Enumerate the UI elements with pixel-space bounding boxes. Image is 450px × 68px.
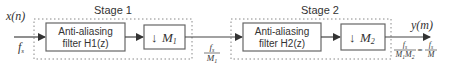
stage-2-label: Stage 2 bbox=[301, 4, 339, 16]
svg-text:M1M2: M1M2 bbox=[395, 50, 415, 60]
svg-text:fs: fs bbox=[210, 42, 216, 53]
intermediate-rate-label: fs M1 bbox=[204, 42, 220, 64]
filter-h2-block: Anti-aliasing filter H2(z) bbox=[243, 23, 321, 51]
filter-h1-line1: Anti-aliasing bbox=[58, 26, 112, 37]
svg-text:fs: fs bbox=[403, 40, 407, 50]
output-signal-label: y(m) bbox=[410, 18, 433, 32]
svg-text:M: M bbox=[427, 50, 436, 59]
stage-1-label: Stage 1 bbox=[94, 4, 132, 16]
filter-h1-block: Anti-aliasing filter H1(z) bbox=[46, 23, 125, 51]
output-rate-label: fs M1M2 = fs M bbox=[394, 40, 437, 60]
filter-h2-line1: Anti-aliasing bbox=[255, 26, 309, 37]
input-rate-label: fs bbox=[18, 40, 24, 55]
svg-text:M1: M1 bbox=[206, 53, 218, 64]
decimator-m2-block: ↓ M2 bbox=[341, 24, 385, 50]
filter-h2-line2: filter H2(z) bbox=[259, 38, 305, 49]
decimator-m1-block: ↓ M1 bbox=[144, 25, 185, 49]
down-arrow-icon: ↓ bbox=[349, 30, 356, 45]
down-arrow-icon: ↓ bbox=[151, 30, 158, 45]
input-signal-label: x(n) bbox=[5, 9, 25, 23]
svg-text:=: = bbox=[417, 45, 422, 55]
svg-text:fs: fs bbox=[429, 40, 433, 50]
filter-h1-line2: filter H1(z) bbox=[62, 38, 108, 49]
multistage-decimator-diagram: Stage 1 Stage 2 x(n) fs Anti-aliasing fi… bbox=[0, 0, 450, 68]
